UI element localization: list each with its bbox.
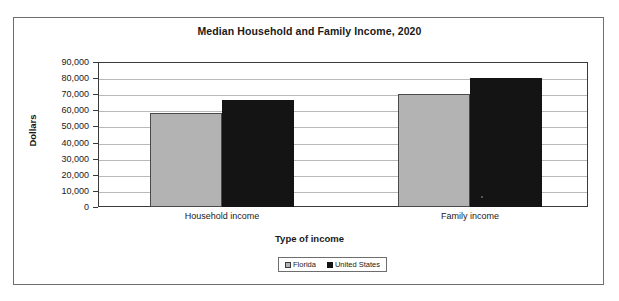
gridline (99, 95, 587, 96)
chart-title: Median Household and Family Income, 2020 (0, 25, 619, 37)
y-axis-title: Dollars (27, 91, 38, 171)
gridline (99, 144, 587, 145)
plot-area (98, 62, 588, 207)
x-axis-category-label: Family income (410, 211, 530, 221)
y-axis-tick-label: 40,000 (61, 138, 89, 148)
gridline (99, 192, 587, 193)
x-axis-title: Type of income (0, 233, 619, 244)
gridline (99, 79, 587, 80)
y-axis-tick-label: 90,000 (61, 57, 89, 67)
y-axis-tick-label: 20,000 (61, 170, 89, 180)
legend-label-florida: Florida (293, 260, 316, 269)
y-axis-tick-label: 70,000 (61, 89, 89, 99)
legend-item-florida: Florida (285, 260, 316, 269)
legend-swatch-united-states-icon (327, 262, 333, 268)
y-axis-tick-mark (93, 207, 98, 208)
y-axis-tick-label: 10,000 (61, 186, 89, 196)
legend-item-united-states: United States (327, 260, 380, 269)
gridline (99, 111, 587, 112)
scan-artifact (481, 196, 483, 198)
chart-legend: Florida United States (278, 257, 387, 272)
y-axis-tick-label: 50,000 (61, 121, 89, 131)
chart-page: Median Household and Family Income, 2020… (0, 0, 619, 301)
y-axis-tick-labels: 010,00020,00030,00040,00050,00060,00070,… (40, 62, 93, 207)
y-axis-tick-label: 0 (84, 202, 89, 212)
legend-label-united-states: United States (335, 260, 380, 269)
gridline (99, 160, 587, 161)
legend-swatch-florida-icon (285, 262, 291, 268)
gridline (99, 127, 587, 128)
y-axis-tick-label: 60,000 (61, 105, 89, 115)
x-axis-category-label: Household income (162, 211, 282, 221)
y-axis-tick-label: 30,000 (61, 154, 89, 164)
y-axis-tick-label: 80,000 (61, 73, 89, 83)
gridline (99, 176, 587, 177)
